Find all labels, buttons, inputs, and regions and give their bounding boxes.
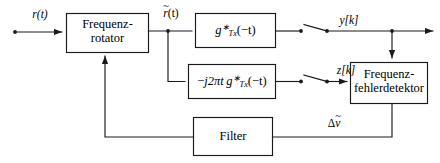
wire-rtilde-to-derivative xyxy=(168,31,185,82)
mf-star: ∗ xyxy=(222,22,229,32)
block-label-frequenzfehlerdetektor: Frequenz- fehlerdetektor xyxy=(347,67,431,95)
mf-arg: (−t) xyxy=(237,23,256,37)
block-label-frequenzrotator: Frequenz- rotator xyxy=(66,17,149,45)
block-label-loop-filter: Filter xyxy=(194,129,272,143)
block-label-matched-filter: g∗Tx(−t) xyxy=(196,23,275,39)
df-arg: (−t) xyxy=(248,74,267,88)
label-y-sample: y[k] xyxy=(331,14,367,27)
wire-filter-to-rotator xyxy=(105,56,194,137)
detektor-line1: Frequenz- xyxy=(347,67,431,81)
label-frequency-error: Δ~v xyxy=(314,117,354,130)
r-arg: (t) xyxy=(168,7,179,19)
block-label-derivative-filter: −j2πt g∗Tx(−t) xyxy=(189,74,275,90)
df-star: ∗ xyxy=(233,73,240,83)
switch-blade-z xyxy=(304,75,327,82)
block-diagram: r(t) Frequenz- rotator ~r(t) g∗Tx(−t) −j… xyxy=(0,0,440,163)
tilde-accent-r: ~ xyxy=(163,0,167,12)
v-tilde-glyph: ~v xyxy=(335,117,340,130)
switch-blade-y xyxy=(304,25,327,32)
delta-glyph: Δ xyxy=(328,117,335,129)
mf-tx: Tx xyxy=(229,29,237,38)
label-rotated-signal: ~r(t) xyxy=(147,7,195,20)
df-2pit: 2πt xyxy=(208,74,224,88)
r-tilde-glyph: ~r xyxy=(163,7,167,20)
df-tx: Tx xyxy=(240,80,248,89)
tilde-accent-v: ~ xyxy=(335,110,340,122)
frequenzrotator-line2: rotator xyxy=(66,31,149,45)
label-input-signal: r(t) xyxy=(17,8,63,21)
frequenzrotator-line1: Frequenz- xyxy=(66,17,149,31)
detektor-line2: fehlerdetektor xyxy=(347,81,431,95)
